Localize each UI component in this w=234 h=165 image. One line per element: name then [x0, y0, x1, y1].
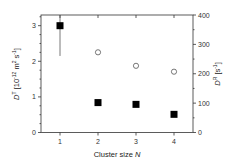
- left-y-tick-label: 3: [32, 22, 36, 29]
- left-y-tick-label: 1: [32, 93, 36, 100]
- right-y-axis-ticks: 0100200300400: [193, 12, 210, 137]
- data-point-circle: [133, 63, 138, 68]
- plot-border: [41, 15, 193, 133]
- right-y-tick-label: 0: [198, 129, 202, 136]
- right-y-tick-label: 100: [198, 100, 210, 107]
- x-tick-label: 2: [96, 138, 100, 145]
- left-y-tick-label: 0: [32, 129, 36, 136]
- right-y-tick-label: 300: [198, 41, 210, 48]
- left-y-label-unit: ]: [12, 48, 21, 50]
- left-y-label-unit: [10: [12, 79, 21, 92]
- data-point-circle: [95, 50, 100, 55]
- x-axis-ticks: 1234: [58, 15, 176, 145]
- x-tick-label: 4: [172, 138, 176, 145]
- data-point-circle: [171, 69, 176, 74]
- data-point-square: [171, 111, 178, 118]
- series-rotational-diffusion: [95, 50, 176, 75]
- data-point-square: [57, 22, 64, 29]
- right-y-label-unit: ]: [213, 62, 222, 64]
- plot-frame: [41, 15, 193, 133]
- x-axis-label-text: Cluster size: [94, 150, 135, 159]
- x-tick-label: 1: [58, 138, 62, 145]
- x-axis-label: Cluster size N: [94, 150, 141, 159]
- right-y-tick-label: 200: [198, 70, 210, 77]
- left-y-label-unit: m: [12, 63, 21, 71]
- scatter-chart: 1234 0123 0100200300400 Cluster size N D…: [0, 0, 234, 165]
- right-y-axis-label: DR [s-1]: [212, 62, 222, 86]
- minor-ticks: [40, 17, 195, 124]
- x-axis-label-variable: N: [135, 150, 141, 159]
- left-y-tick-label: 2: [32, 58, 36, 65]
- data-point-square: [133, 101, 140, 108]
- x-tick-label: 3: [134, 138, 138, 145]
- data-point-square: [95, 99, 102, 106]
- right-y-tick-label: 400: [198, 12, 210, 19]
- left-y-axis-label: DT [10-12 m2 s-1]: [11, 48, 21, 100]
- series-translational-diffusion: [57, 22, 178, 118]
